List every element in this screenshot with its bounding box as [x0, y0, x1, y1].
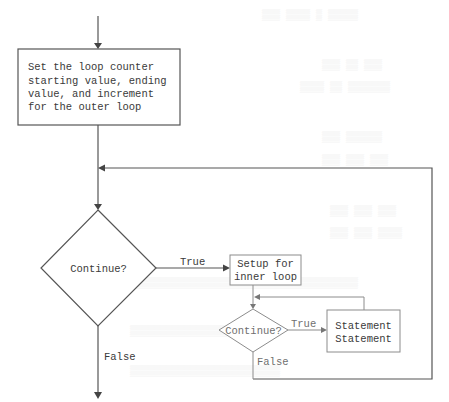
inner-true-label: True — [291, 318, 316, 330]
statement-box: Statement Statement — [327, 310, 400, 352]
outer-setup-line-4: for the outer loop — [28, 101, 141, 113]
outer-false-label: False — [104, 351, 136, 363]
inner-setup-box: Setup for inner loop — [230, 255, 301, 285]
arrowhead-icon — [94, 43, 102, 49]
statement-line-2: Statement — [335, 333, 392, 345]
arrowhead-icon — [94, 392, 102, 399]
entry-arrow — [94, 16, 102, 49]
outer-setup-line-2: starting value, ending — [28, 75, 167, 87]
outer-decision-label: Continue? — [70, 263, 127, 275]
outer-true-branch: True — [156, 256, 230, 272]
inner-loop-back-path — [254, 294, 364, 310]
outer-decision: Continue? — [41, 210, 156, 326]
inner-false-label: False — [257, 356, 289, 368]
flowchart: Set the loop counter starting value, end… — [0, 0, 449, 402]
inner-false-branch: False — [253, 352, 289, 379]
inner-setup-line-2: inner loop — [234, 271, 297, 283]
inner-decision: Continue? — [219, 309, 288, 352]
arrowhead-icon — [98, 165, 105, 172]
arrowhead-icon — [321, 327, 327, 333]
arrowhead-icon — [94, 204, 102, 210]
outer-setup-line-1: Set the loop counter — [28, 61, 154, 73]
arrowhead-icon — [250, 304, 256, 309]
inner-setup-line-1: Setup for — [237, 258, 294, 270]
outer-true-label: True — [180, 256, 205, 268]
statement-line-1: Statement — [335, 320, 392, 332]
arrowhead-icon — [223, 265, 230, 272]
outer-setup-box: Set the loop counter starting value, end… — [18, 49, 180, 125]
inner-true-branch: True — [288, 318, 327, 333]
inner-decision-label: Continue? — [225, 325, 282, 337]
outer-setup-line-3: value, and increment — [28, 88, 154, 100]
inner-loop-back-line — [259, 297, 364, 310]
arrowhead-icon — [254, 294, 260, 300]
outer-false-branch: False — [94, 326, 136, 399]
